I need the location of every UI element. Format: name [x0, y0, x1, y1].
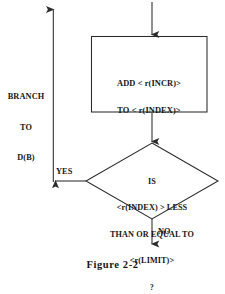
process-line-1: ADD < r(INCR)>: [91, 79, 207, 88]
no-edge-label: NO: [158, 228, 182, 237]
branch-label-line-3: D(B): [2, 153, 50, 163]
decision-line-1: IS: [80, 178, 224, 187]
process-line-2: TO < r(INDEX)>: [91, 106, 207, 115]
branch-label-line-2: TO: [2, 123, 50, 133]
yes-edge-label: YES: [56, 168, 84, 177]
branch-target-label: BRANCH TO D(B): [2, 72, 50, 183]
decision-diamond-text: IS <r(INDEX) > LESS THAN OR EQUAL TO <r(…: [80, 160, 224, 294]
decision-line-5: ?: [80, 284, 224, 292]
figure-caption: Figure 2-2: [0, 259, 225, 270]
decision-line-2: <r(INDEX) > LESS: [80, 204, 224, 213]
process-box-text: ADD < r(INCR)> TO < r(INDEX)>: [91, 61, 207, 134]
decision-line-3: THAN OR EQUAL TO: [80, 231, 224, 240]
branch-label-line-1: BRANCH: [2, 92, 50, 102]
